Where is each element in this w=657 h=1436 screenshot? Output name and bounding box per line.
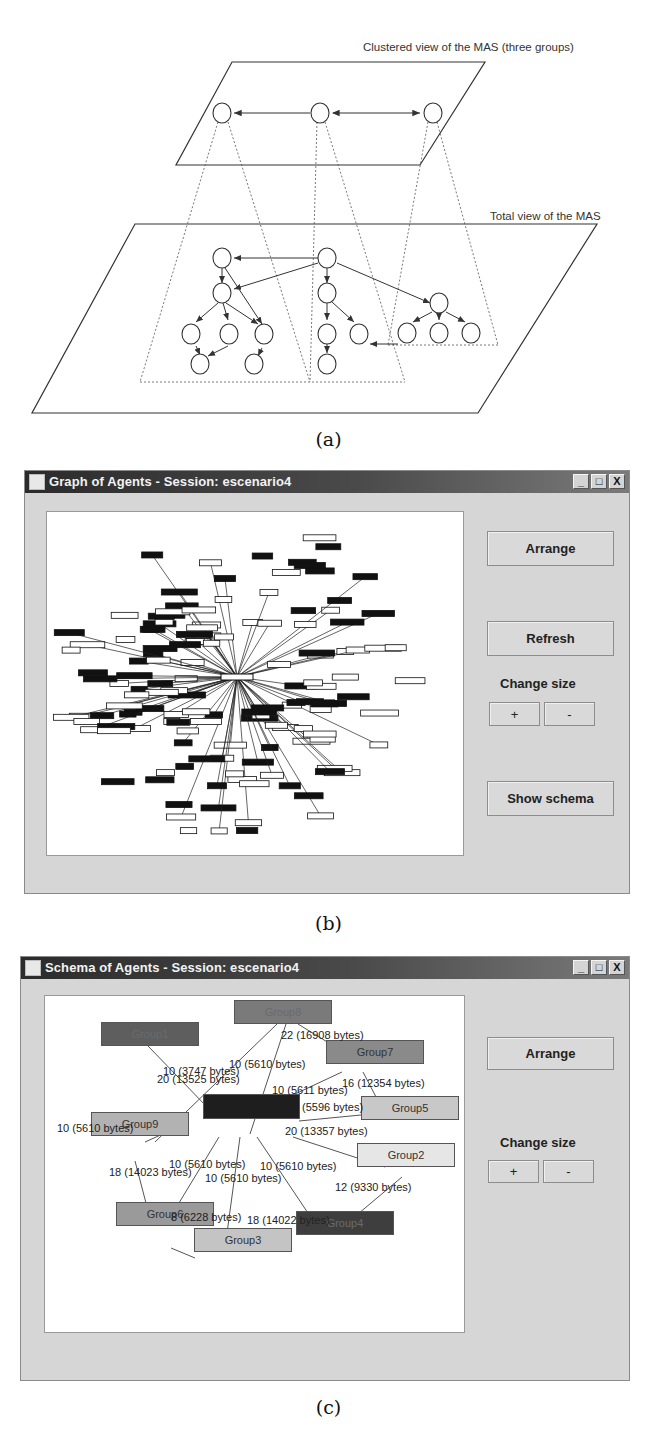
group-node-group3[interactable]: Group3 bbox=[194, 1228, 292, 1252]
figure-a: Clustered view of the MAS (three groups)… bbox=[0, 0, 657, 450]
edge-label: 18 (14022 bytes) bbox=[247, 1214, 330, 1226]
total-view-label: Total view of the MAS bbox=[490, 210, 601, 222]
size-increase-button[interactable]: + bbox=[489, 702, 540, 726]
edge-label: (5596 bytes) bbox=[302, 1101, 363, 1113]
edge-label: 20 (13357 bytes) bbox=[285, 1125, 368, 1137]
size-increase-button[interactable]: + bbox=[488, 1160, 539, 1183]
group-node-group7[interactable]: Group7 bbox=[326, 1040, 424, 1064]
group-schema-canvas[interactable]: Group8Group1Group7Group5Group9Group2Grou… bbox=[44, 995, 465, 1333]
app-icon bbox=[29, 474, 45, 490]
mas-cluster-diagram bbox=[0, 0, 657, 450]
edge-label: 10 (5610 bytes) bbox=[260, 1160, 336, 1172]
clustered-view-label: Clustered view of the MAS (three groups) bbox=[363, 41, 574, 53]
title-bar: Graph of Agents - Session: escenario4 _ … bbox=[25, 471, 629, 493]
group-node-group2[interactable]: Group2 bbox=[357, 1143, 455, 1167]
agent-graph-canvas[interactable] bbox=[46, 511, 464, 856]
edge-label: 16 (12354 bytes) bbox=[342, 1077, 425, 1089]
edge-label: 22 (16908 bytes) bbox=[281, 1029, 364, 1041]
window-title: Graph of Agents - Session: escenario4 bbox=[49, 471, 291, 493]
app-icon bbox=[25, 960, 41, 976]
agent-graph-hairball bbox=[47, 512, 464, 856]
caption-c: (c) bbox=[0, 1396, 657, 1418]
show-schema-button[interactable]: Show schema bbox=[487, 781, 614, 816]
graph-of-agents-window: Graph of Agents - Session: escenario4 _ … bbox=[24, 470, 630, 894]
group-node-group8[interactable]: Group8 bbox=[234, 1000, 332, 1024]
close-button[interactable]: X bbox=[609, 960, 625, 975]
size-decrease-button[interactable]: - bbox=[543, 1160, 594, 1183]
maximize-button[interactable]: □ bbox=[591, 474, 607, 489]
edge-label: 10 (5610 bytes) bbox=[229, 1058, 305, 1070]
group-node-group1[interactable]: Group1 bbox=[101, 1022, 199, 1046]
edge-label: 18 (14023 bytes) bbox=[109, 1166, 192, 1178]
edge-label: 10 (5611 bytes) bbox=[272, 1084, 348, 1096]
edge-label: 10 (5610 bytes) bbox=[205, 1172, 281, 1184]
minimize-button[interactable]: _ bbox=[573, 960, 589, 975]
close-button[interactable]: X bbox=[609, 474, 625, 489]
change-size-label: Change size bbox=[500, 676, 576, 691]
caption-b: (b) bbox=[0, 912, 657, 934]
arrange-button[interactable]: Arrange bbox=[487, 531, 614, 566]
minimize-button[interactable]: _ bbox=[573, 474, 589, 489]
schema-of-agents-window: Schema of Agents - Session: escenario4 _… bbox=[20, 956, 630, 1381]
edge-label: 20 (13525 bytes) bbox=[157, 1073, 240, 1085]
edge-label: 10 (5610 bytes) bbox=[57, 1122, 133, 1134]
refresh-button[interactable]: Refresh bbox=[487, 621, 614, 656]
edge-label: 8 (6228 bytes) bbox=[171, 1211, 241, 1223]
group-node-center[interactable] bbox=[203, 1094, 300, 1119]
group-node-group5[interactable]: Group5 bbox=[361, 1096, 459, 1120]
maximize-button[interactable]: □ bbox=[591, 960, 607, 975]
caption-a: (a) bbox=[0, 428, 657, 450]
edge-label: 12 (9330 bytes) bbox=[335, 1181, 411, 1193]
arrange-button[interactable]: Arrange bbox=[487, 1037, 614, 1070]
window-title: Schema of Agents - Session: escenario4 bbox=[45, 957, 299, 979]
size-decrease-button[interactable]: - bbox=[544, 702, 595, 726]
title-bar: Schema of Agents - Session: escenario4 _… bbox=[21, 957, 629, 979]
change-size-label: Change size bbox=[500, 1135, 576, 1150]
